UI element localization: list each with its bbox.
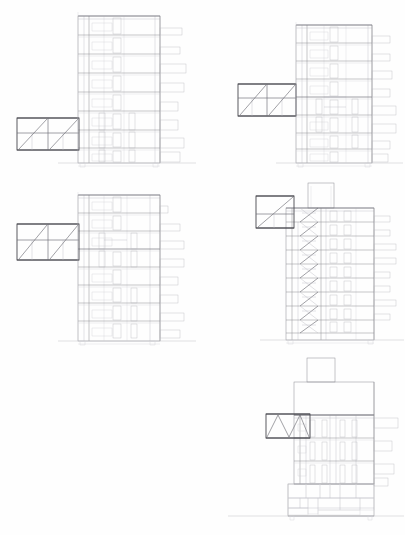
ground-line-1 [58, 163, 196, 167]
building-body-3 [78, 195, 160, 341]
cantilever-truss-3[interactable] [17, 224, 79, 260]
ground-line-5 [228, 516, 404, 520]
floor-slabs-3 [78, 213, 160, 323]
cantilever-truss-1[interactable] [17, 118, 79, 150]
core-shafts-2 [330, 27, 338, 162]
building-body-1 [78, 16, 160, 163]
section-top-left[interactable] [0, 0, 210, 180]
core-shafts-1 [113, 18, 121, 162]
building-body-4 [286, 208, 374, 340]
building-body-5 [294, 382, 374, 484]
section-middle-left[interactable] [0, 180, 210, 360]
section-bottom-right[interactable] [228, 352, 405, 535]
base-elevation-detail-5 [288, 484, 374, 516]
interior-partitions-2 [310, 32, 328, 161]
cantilever-truss-4[interactable] [256, 196, 294, 228]
roof-box-4 [308, 183, 334, 208]
ground-line-3 [58, 341, 196, 345]
stair-zigzag-4 [300, 208, 318, 333]
section-top-right[interactable] [228, 0, 405, 180]
balconies-right-2 [372, 36, 396, 162]
cantilever-truss-2[interactable] [238, 84, 296, 116]
ground-line-2 [276, 163, 403, 167]
ground-line-4 [260, 340, 404, 344]
cantilever-truss-5[interactable] [266, 414, 310, 438]
unit-openings-5 [298, 420, 357, 483]
lower-partitions-1 [99, 113, 135, 162]
building-body-2 [296, 25, 372, 163]
section-middle-right[interactable] [228, 178, 405, 358]
drawing-sheet [0, 0, 405, 535]
balconies-right-5 [374, 418, 398, 486]
balconies-right-1 [160, 28, 186, 162]
balconies-right-4 [374, 216, 396, 320]
balconies-right-3 [160, 206, 184, 338]
core-shafts-3 [113, 197, 121, 338]
roof-box-5 [307, 358, 335, 382]
unit-openings-4 [330, 211, 351, 332]
mid-zone-partitions-2 [316, 97, 358, 148]
floor-slabs-1 [78, 35, 160, 150]
